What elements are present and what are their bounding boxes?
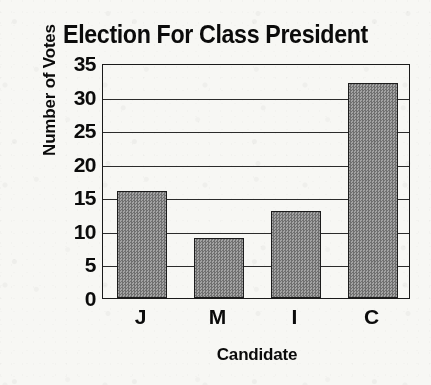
- bar-J: [117, 191, 167, 298]
- y-tick-label: 5: [0, 253, 96, 277]
- y-tick-label: 30: [0, 86, 96, 110]
- bar-chart-figure: Election For Class President Number of V…: [0, 0, 431, 385]
- plot-area: [102, 64, 410, 299]
- y-tick-label: 15: [0, 186, 96, 210]
- bar-M: [194, 238, 244, 298]
- x-axis-tick-labels: JMIC: [102, 305, 410, 339]
- y-tick-label: 10: [0, 220, 96, 244]
- y-axis-tick-labels: 05101520253035: [0, 0, 96, 385]
- bar-I: [271, 211, 321, 298]
- x-axis-title: Candidate: [102, 345, 412, 365]
- y-tick-label: 20: [0, 153, 96, 177]
- x-tick-label-J: J: [135, 305, 147, 329]
- bar-C: [348, 83, 398, 298]
- y-tick-label: 0: [0, 287, 96, 311]
- x-tick-label-M: M: [209, 305, 227, 329]
- x-tick-label-C: C: [364, 305, 379, 329]
- y-tick-label: 25: [0, 119, 96, 143]
- y-tick-label: 35: [0, 52, 96, 76]
- x-tick-label-I: I: [292, 305, 298, 329]
